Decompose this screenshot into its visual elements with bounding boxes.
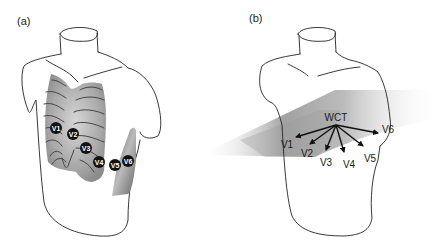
wct-label: WCT <box>325 112 348 123</box>
panel-b: (b) WCT V1 V2 V3 V4 <box>200 12 440 236</box>
svg-text:V6: V6 <box>124 158 133 165</box>
lead-v1-label: V1 <box>281 139 294 150</box>
lead-v5-label: V5 <box>364 153 377 164</box>
electrode-v2: V2 <box>67 128 79 140</box>
panel-a-label: (a) <box>17 15 30 27</box>
electrode-v5: V5 <box>109 159 121 171</box>
svg-text:V3: V3 <box>82 145 91 152</box>
lead-v4-label: V4 <box>343 159 356 170</box>
svg-text:V4: V4 <box>95 159 104 166</box>
lead-v2-label: V2 <box>301 148 314 159</box>
lead-v3-label: V3 <box>320 157 333 168</box>
svg-text:V1: V1 <box>52 125 61 132</box>
electrode-v1: V1 <box>50 122 62 134</box>
horizontal-plane <box>200 90 440 157</box>
panel-b-label: (b) <box>249 12 262 24</box>
panel-a: (a) <box>17 15 161 236</box>
lead-v6-label: V6 <box>382 124 395 135</box>
svg-text:V5: V5 <box>111 162 120 169</box>
electrode-v3: V3 <box>80 142 92 154</box>
electrode-v6: V6 <box>122 155 134 167</box>
ecg-precordial-leads-figure: (a) <box>0 0 440 249</box>
electrode-v4: V4 <box>93 156 105 168</box>
svg-text:V2: V2 <box>69 131 78 138</box>
